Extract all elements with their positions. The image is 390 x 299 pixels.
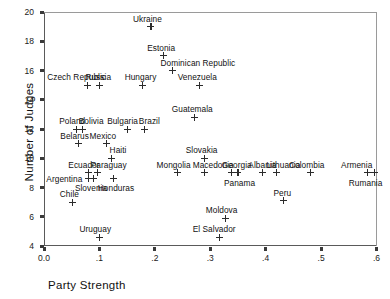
x-tick-label: 0.0 [32, 253, 56, 263]
y-tick-mark [40, 128, 44, 131]
data-point-label: Guatemala [172, 104, 213, 114]
data-point-label: Estonia [147, 43, 175, 53]
y-tick-label: 18 [12, 36, 34, 46]
x-tick-mark [264, 247, 267, 251]
x-tick-label: .4 [254, 253, 278, 263]
data-point-label: Bolivia [79, 116, 104, 126]
y-tick-label: 20 [12, 7, 34, 17]
scatter-chart: 201816141210864 0.0.1.2.3.4.5.6 UkraineE… [0, 0, 390, 299]
x-tick-mark [320, 247, 323, 251]
x-tick-label: .2 [143, 253, 167, 263]
x-tick-label: .6 [365, 253, 389, 263]
data-point-label: Venezuela [178, 72, 217, 82]
plot-frame-top [44, 12, 377, 13]
y-tick-mark [40, 69, 44, 72]
x-tick-mark [209, 247, 212, 251]
data-point-label: Slovakia [186, 145, 218, 155]
plot-frame-right [376, 12, 377, 246]
data-point-label: Mongolia [157, 160, 191, 170]
y-tick-mark [40, 11, 44, 14]
data-point-label: Brazil [139, 116, 160, 126]
y-axis-title: Number of Judges [23, 47, 35, 217]
x-tick-label: .5 [309, 253, 333, 263]
data-point-label: Rumania [349, 178, 383, 188]
x-tick-mark [375, 247, 378, 251]
data-point-label: Colombia [289, 160, 324, 170]
y-tick-mark [40, 98, 44, 101]
data-point-label: Russia [85, 72, 111, 82]
data-point-label: Uruguay [79, 224, 111, 234]
x-tick-mark [98, 247, 101, 251]
x-tick-mark [43, 247, 46, 251]
y-tick-mark [40, 186, 44, 189]
data-point-label: Ukraine [133, 14, 162, 24]
data-point-label: Bulgaria [107, 116, 138, 126]
x-axis-title: Party Strength [48, 279, 126, 291]
x-tick-mark [153, 247, 156, 251]
data-point-label: Dominican Republic [161, 58, 236, 68]
y-tick-mark [40, 157, 44, 160]
y-tick-mark [40, 40, 44, 43]
data-point-label: El Salvador [193, 224, 236, 234]
data-point-label: Armenia [341, 160, 372, 170]
data-point-label: Chile [60, 189, 79, 199]
data-point-label: Haiti [110, 145, 127, 155]
data-point-label: Hungary [125, 72, 157, 82]
data-point-label: Peru [273, 188, 291, 198]
data-point-label: Honduras [98, 183, 134, 193]
data-point-label: Moldova [206, 205, 238, 215]
data-point-label: Mexico [90, 131, 117, 141]
data-point-label: Panama [224, 178, 255, 188]
x-tick-label: .3 [198, 253, 222, 263]
data-point-label: Georgia [222, 160, 252, 170]
y-tick-label: 4 [12, 241, 34, 251]
x-tick-label: .1 [87, 253, 111, 263]
data-point-label: Paraguay [91, 160, 127, 170]
data-point-label: Belarus [60, 131, 88, 141]
y-tick-mark [40, 215, 44, 218]
